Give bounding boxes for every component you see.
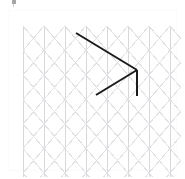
drawing-panel[interactable]: [9, 11, 176, 170]
cropped-cursor-artifact-tail-icon: [13, 4, 14, 7]
isometric-grid[interactable]: [23, 26, 181, 177]
grid-lines-svg: [23, 26, 181, 177]
drawing-app-window: [0, 0, 185, 179]
